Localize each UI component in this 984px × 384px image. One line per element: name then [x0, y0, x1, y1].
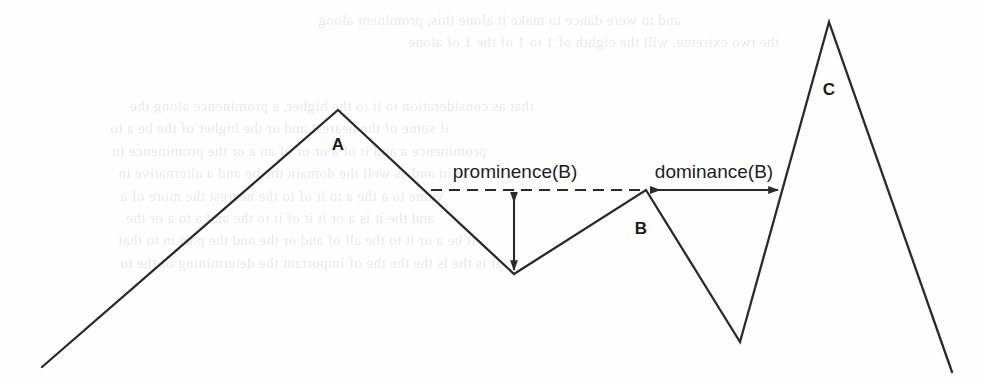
- dominance-annotation-label: dominance(B): [655, 161, 773, 182]
- mountain-profile-path: [42, 22, 952, 372]
- prominence-annotation-label: prominence(B): [453, 161, 578, 182]
- figure-container: and to were dance to make it alone this,…: [0, 0, 984, 384]
- peak-label-b: B: [635, 219, 647, 238]
- prominence-dominance-diagram: A B C prominence(B) dominance(B): [0, 0, 984, 384]
- peak-label-c: C: [823, 80, 835, 99]
- peak-label-a: A: [332, 135, 344, 154]
